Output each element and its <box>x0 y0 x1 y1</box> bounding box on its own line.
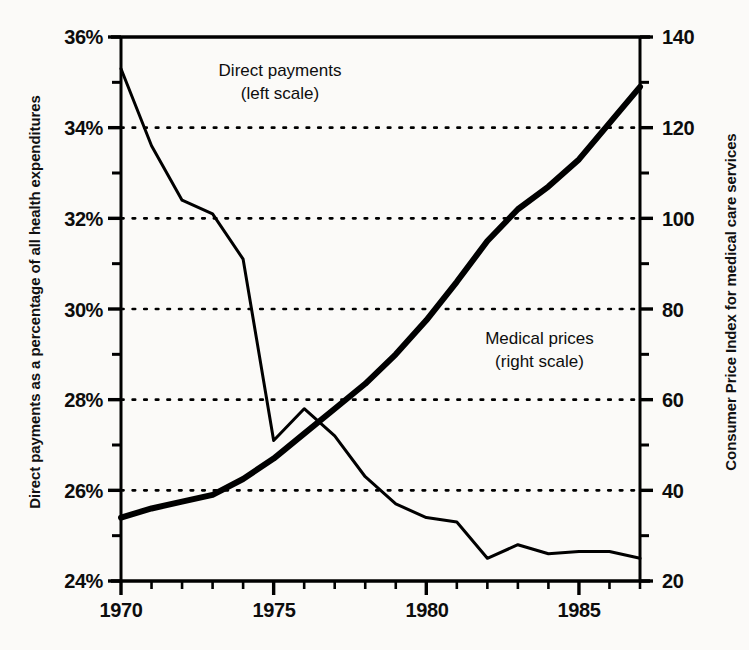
series-line-medical-prices <box>121 87 640 518</box>
chart-container: Direct payments as a percentage of all h… <box>0 0 749 650</box>
series-line-direct-payments <box>121 69 640 559</box>
gridlines-group <box>121 128 640 491</box>
plot-svg <box>0 0 749 650</box>
axis-ticks-group <box>108 37 653 595</box>
data-series-group <box>121 69 640 559</box>
